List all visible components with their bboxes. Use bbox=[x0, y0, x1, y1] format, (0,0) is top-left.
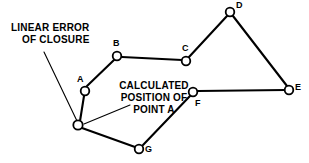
annotation-calculated-line-1: CALCULATED bbox=[106, 80, 202, 92]
vertex-node-e bbox=[285, 86, 294, 95]
vertex-label-g: G bbox=[145, 145, 152, 154]
edge-calculated-a-to-a bbox=[80, 96, 84, 121]
vertex-label-d: D bbox=[236, 1, 243, 10]
annotation-closure-line-1: LINEAR ERROR bbox=[11, 22, 90, 34]
vertex-node-g bbox=[135, 145, 144, 154]
annotation-linear-error-of-closure: LINEAR ERROR OF CLOSURE bbox=[11, 22, 90, 46]
edge-d-to-e bbox=[233, 16, 287, 86]
vertex-node-calculated-a bbox=[73, 120, 82, 129]
vertex-node-b bbox=[113, 52, 122, 61]
traverse-diagram: A B C D E F G LINEAR ERROR OF CLOSURE CA… bbox=[0, 0, 309, 163]
annotation-calculated-line-2: POSITION OF bbox=[106, 92, 202, 104]
vertex-label-c: C bbox=[182, 44, 189, 53]
vertex-node-c bbox=[182, 57, 191, 66]
annotation-calculated-line-3: POINT A bbox=[106, 104, 202, 116]
edge-e-to-f bbox=[198, 90, 285, 91]
vertex-label-e: E bbox=[295, 83, 301, 92]
vertex-label-a: A bbox=[77, 75, 84, 84]
vertex-label-b: B bbox=[113, 39, 120, 48]
vertex-node-a bbox=[81, 87, 90, 96]
edge-b-to-c bbox=[122, 57, 182, 60]
annotation-calculated-position: CALCULATED POSITION OF POINT A bbox=[106, 80, 202, 116]
annotation-closure-line-2: OF CLOSURE bbox=[11, 34, 90, 46]
vertex-node-d bbox=[226, 8, 235, 17]
edge-c-to-d bbox=[189, 16, 227, 57]
leader-line-closure bbox=[44, 52, 77, 121]
edge-g-to-calculated-a bbox=[82, 128, 135, 147]
